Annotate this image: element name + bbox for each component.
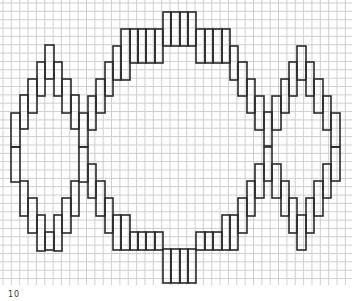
bar-segment (96, 79, 105, 113)
bar-segment (289, 62, 297, 96)
bar-segment (28, 79, 37, 113)
bar-segment (11, 147, 20, 182)
bar-segment (323, 164, 331, 198)
bar-segment (314, 79, 323, 113)
bar-segment (331, 113, 340, 147)
bar-segment (54, 62, 62, 96)
bar-segment (272, 96, 281, 130)
graph-paper-drawing (0, 0, 352, 301)
right-diamond (272, 46, 340, 250)
bar-segment (323, 96, 331, 130)
bar-segment (213, 232, 222, 250)
bar-segment (37, 62, 45, 96)
bar-segment (255, 164, 264, 198)
bar-segment (213, 29, 222, 63)
bar-segment (306, 62, 314, 96)
grid-lines (0, 0, 352, 285)
page-number-label: 10 (8, 290, 20, 299)
bar-segment (11, 113, 20, 147)
bar-segment (331, 147, 340, 181)
bar-segment (297, 46, 306, 80)
bar-segment (255, 96, 264, 130)
bar-segment (238, 62, 247, 96)
bar-segment (281, 79, 289, 113)
bar-segment (264, 112, 272, 146)
bar-segment (272, 164, 281, 198)
bar-segment (264, 147, 272, 181)
